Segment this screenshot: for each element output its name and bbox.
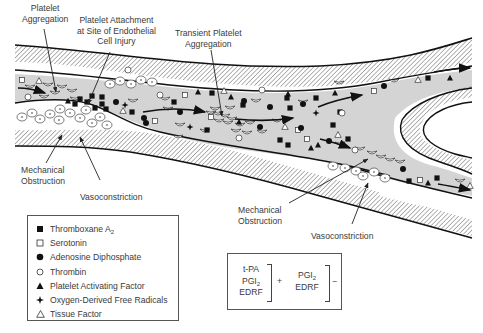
label-line: Platelet — [22, 3, 68, 14]
label-mechanical-obstruction-left: Mechanical Obstruction — [21, 165, 65, 186]
legend-item-thromboxane: Thromboxane A2 — [36, 222, 178, 236]
formula-text: PGI — [242, 276, 257, 286]
filled-circle-icon — [36, 252, 48, 262]
legend-label-text: Thromboxane A — [50, 224, 111, 234]
subscript: 2 — [257, 281, 260, 287]
label-line: Obstruction — [21, 176, 65, 187]
label-platelet-aggregation: Platelet Aggregation — [22, 3, 68, 24]
legend-box: Thromboxane A2 Serotonin Adenosine Dipho… — [27, 215, 179, 321]
bracket-2 — [325, 265, 330, 302]
label-line: Mechanical — [21, 165, 65, 176]
legend-label: Platelet Activating Factor — [50, 281, 145, 291]
formula-text: PGI — [298, 270, 313, 280]
label-line: Aggregation — [175, 39, 242, 50]
label-vasoconstriction-right: Vasoconstriction — [311, 231, 373, 242]
legend-item-thrombin: Thrombin — [36, 265, 178, 279]
label-line: Aggregation — [22, 14, 68, 25]
bracket-1 — [267, 264, 272, 302]
legend-label: Thrombin — [50, 267, 86, 277]
formula-line: EDRF — [236, 287, 266, 299]
formula-box: t-PA PGI2 EDRF + PGI2 EDRF − — [227, 253, 342, 310]
legend-label: Oxygen-Derived Free Radicals — [50, 295, 168, 305]
formula-line: PGI2 — [291, 270, 323, 282]
label-mechanical-obstruction-right: Mechanical Obstruction — [238, 205, 282, 226]
formula-group-2: PGI2 EDRF — [291, 270, 323, 293]
formula-line: t-PA — [236, 264, 266, 276]
formula-group-1: t-PA PGI2 EDRF — [236, 264, 266, 299]
formula-line: PGI2 — [236, 276, 266, 288]
legend-label: Tissue Factor — [50, 309, 102, 319]
open-square-icon — [36, 238, 48, 248]
label-line: at Site of Endothelial — [77, 26, 156, 37]
label-line: Obstruction — [238, 216, 282, 227]
subscript: 2 — [111, 229, 114, 235]
legend-item-serotonin: Serotonin — [36, 236, 178, 250]
label-platelet-attachment: Platelet Attachment at Site of Endotheli… — [77, 15, 156, 47]
minus-sign: − — [332, 276, 337, 286]
legend-item-paf: Platelet Activating Factor — [36, 279, 178, 293]
legend-label: Serotonin — [50, 238, 87, 248]
label-line: Platelet Attachment — [77, 15, 156, 26]
legend-item-adp: Adenosine Diphosphate — [36, 250, 178, 264]
plus-sign: + — [277, 276, 282, 286]
open-circle-icon — [36, 267, 48, 277]
label-transient-platelet-aggregation: Transient Platelet Aggregation — [175, 28, 242, 49]
star-icon — [36, 295, 48, 305]
legend-label: Thromboxane A2 — [50, 224, 114, 234]
filled-square-icon — [36, 224, 48, 234]
filled-triangle-icon — [36, 281, 48, 291]
label-line: Cell Injury — [77, 36, 156, 47]
legend-item-tissue-factor: Tissue Factor — [36, 307, 178, 321]
label-line: Mechanical — [238, 205, 282, 216]
subscript: 2 — [313, 275, 316, 281]
label-vasoconstriction-left: Vasoconstriction — [80, 192, 142, 203]
label-line: Transient Platelet — [175, 28, 242, 39]
formula-line: EDRF — [291, 282, 323, 294]
open-triangle-icon — [36, 309, 48, 319]
legend-label: Adenosine Diphosphate — [50, 252, 141, 262]
legend-item-free-radicals: Oxygen-Derived Free Radicals — [36, 293, 178, 307]
